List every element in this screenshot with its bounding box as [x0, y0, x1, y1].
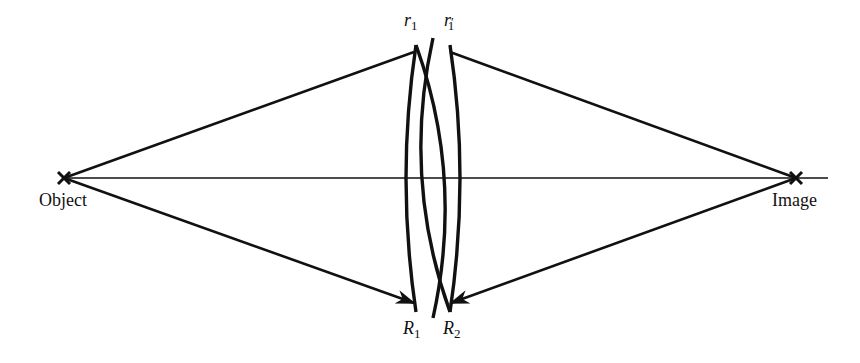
ray-diagram — [0, 0, 860, 363]
ray-image-bottom — [451, 178, 796, 303]
label-R2: R2 — [443, 318, 461, 339]
label-R1: R1 — [403, 318, 421, 339]
ray-object-top — [64, 52, 414, 178]
object-label: Object — [39, 190, 87, 211]
label-r1: r1 — [404, 10, 418, 31]
ray-object-bottom — [64, 178, 414, 303]
label-r1-prime: r′1 — [444, 10, 454, 31]
image-label: Image — [772, 190, 817, 211]
ray-top-image — [450, 52, 796, 178]
lens1-right-surface — [416, 45, 445, 318]
